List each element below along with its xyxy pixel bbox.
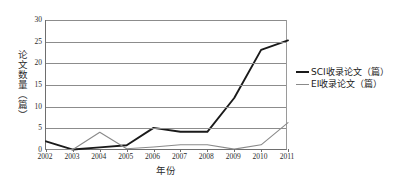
plot-area: [45, 20, 287, 150]
gridline-25: [46, 42, 286, 43]
chart-legend: SCI收录论文（篇）EI收录论文（篇）: [296, 66, 407, 90]
legend-item-ei[interactable]: EI收录论文（篇）: [296, 78, 407, 90]
gridline-20: [46, 63, 286, 64]
x-tick-label-2005: 2005: [111, 152, 141, 161]
legend-line-swatch-icon: [296, 84, 309, 85]
x-tick-label-2010: 2010: [245, 152, 275, 161]
y-tick-label-30: 30: [24, 16, 42, 24]
legend-item-sci[interactable]: SCI收录论文（篇）: [296, 66, 407, 78]
series-line-ei: [46, 123, 288, 150]
legend-line-swatch-icon: [296, 71, 309, 73]
y-tick-label-25: 25: [24, 38, 42, 46]
x-tick-label-2008: 2008: [191, 152, 221, 161]
y-tick-label-10: 10: [24, 103, 42, 111]
x-tick-label-2011: 2011: [272, 152, 302, 161]
series-line-sci: [46, 40, 288, 149]
y-tick-label-15: 15: [24, 81, 42, 89]
x-tick-label-2003: 2003: [57, 152, 87, 161]
x-axis-title: 年份: [45, 165, 287, 176]
gridline-10: [46, 107, 286, 108]
x-axis-tick-labels: 2002200320042005200620072008200920102011: [45, 152, 287, 164]
gridline-15: [46, 85, 286, 86]
line-chart: 论文数量（篇） 051015202530 2002200320042005200…: [0, 0, 407, 185]
legend-label: EI收录论文（篇）: [311, 78, 382, 90]
legend-label: SCI收录论文（篇）: [311, 66, 389, 78]
gridline-30: [46, 20, 286, 21]
y-tick-label-5: 5: [24, 124, 42, 132]
y-tick-label-20: 20: [24, 59, 42, 67]
x-tick-label-2007: 2007: [164, 152, 194, 161]
x-tick-label-2006: 2006: [138, 152, 168, 161]
x-tick-label-2002: 2002: [30, 152, 60, 161]
x-tick-label-2004: 2004: [84, 152, 114, 161]
gridline-5: [46, 128, 286, 129]
x-tick-label-2009: 2009: [218, 152, 248, 161]
